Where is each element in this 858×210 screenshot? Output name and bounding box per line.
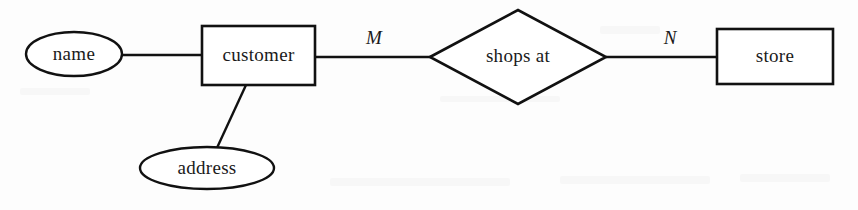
entity-store-label: store — [756, 45, 794, 66]
entity-customer-label: customer — [222, 44, 294, 65]
connector-customer-to-address — [216, 85, 246, 150]
relationship-shops-at[interactable]: shops at — [430, 10, 606, 104]
cardinality-label-n: N — [663, 27, 678, 48]
relationship-shops-at-label: shops at — [486, 45, 551, 66]
entity-store[interactable]: store — [717, 29, 833, 84]
attribute-address[interactable]: address — [140, 147, 274, 189]
entity-customer[interactable]: customer — [202, 26, 315, 85]
er-diagram-canvas: name customer address M shops at N store — [0, 0, 858, 210]
attribute-name-label: name — [53, 43, 95, 64]
attribute-address-label: address — [177, 157, 236, 178]
attribute-name[interactable]: name — [26, 32, 122, 76]
cardinality-label-m: M — [365, 27, 383, 48]
